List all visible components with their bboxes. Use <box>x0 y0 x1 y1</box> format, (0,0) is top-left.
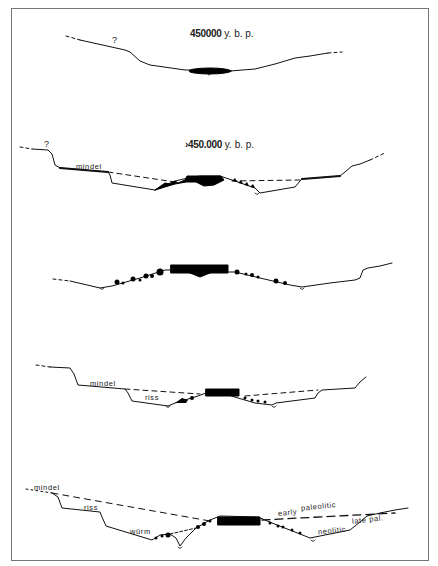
panel-4-riss-label: riss <box>145 394 159 402</box>
panel-5-riss-label: riss <box>84 504 98 512</box>
panel-5-mindel-label: mindel <box>34 484 60 492</box>
panel-2-date-label: ›450.000 y. b. p. <box>185 140 254 150</box>
panel-2-mindel-label: mindel <box>76 163 102 171</box>
profile-panel-2 <box>20 147 385 195</box>
valley-profiles-diagram <box>0 0 438 566</box>
panel-1-question-mark: ? <box>112 36 117 45</box>
panel-4-mindel-label: mindel <box>90 380 116 388</box>
profile-panel-5 <box>26 489 408 549</box>
profile-panel-4 <box>36 365 366 408</box>
profile-panel-1 <box>66 36 342 76</box>
panel-5-early-label: early <box>278 508 298 517</box>
panel-1-date-label: 450000 y. b. p. <box>190 29 254 39</box>
panel-5-wurm-label: würm <box>130 528 151 536</box>
profile-panel-3 <box>53 263 392 290</box>
panel-2-question-mark: ? <box>44 140 49 149</box>
